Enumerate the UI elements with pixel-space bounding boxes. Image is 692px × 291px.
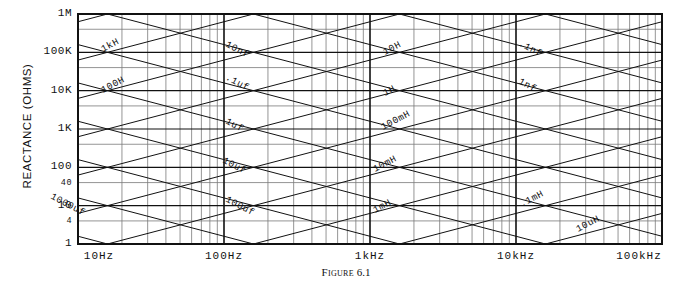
figure-caption-label: Figure [322, 266, 354, 278]
x-tick-label-100Hz: 100Hz [179, 250, 269, 262]
series-label-10H: 10H [381, 39, 403, 58]
series-label-1H: 1H [381, 83, 397, 99]
x-tick-label-10kHz: 10kHz [471, 250, 561, 262]
y-tick-label-1: 1 [14, 237, 72, 249]
figure-caption-number: 6.1 [357, 266, 371, 278]
y-tick-label-4: 4 [14, 216, 72, 226]
series-label-1nf: 1nf [517, 76, 539, 95]
x-tick-label-1kHz: 1kHz [325, 250, 415, 262]
y-tick-label-10K: 10K [14, 84, 72, 96]
y-tick-label-10: 10 [14, 199, 72, 211]
y-tick-label-40: 40 [14, 178, 72, 188]
series-label-1mH: 1mH [371, 197, 393, 216]
x-tick-label-100kHz: 100kHz [594, 250, 684, 262]
y-tick-label-1K: 1K [14, 122, 72, 134]
y-tick-label-100: 100 [14, 160, 72, 172]
reactance-chart-figure: 1kH100H10H1H100mH10mH1mH.1mH10uH1000uf10… [0, 0, 692, 291]
reactance-chart-plot: 1kH100H10H1H100mH10mH1mH.1mH10uH1000uf10… [0, 0, 692, 291]
series-label-100uf: 100uf [224, 194, 257, 219]
series-label-10nf: 10nf [224, 39, 251, 61]
x-tick-label-10Hz: 10Hz [54, 250, 144, 262]
y-tick-label-100K: 100K [14, 45, 72, 57]
figure-caption: Figure 6.1 [0, 266, 692, 278]
y-tick-label-1M: 1M [14, 7, 72, 19]
